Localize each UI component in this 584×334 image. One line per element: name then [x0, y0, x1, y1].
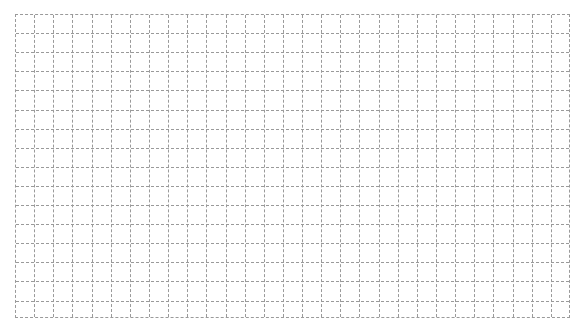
grid-vertical-line	[321, 15, 322, 317]
grid-vertical-line	[92, 15, 93, 317]
dashed-grid	[15, 14, 570, 318]
grid-vertical-line	[53, 15, 54, 317]
grid-vertical-line	[532, 15, 533, 317]
grid-vertical-line	[34, 15, 35, 317]
grid-horizontal-line	[16, 281, 569, 282]
grid-vertical-line	[340, 15, 341, 317]
grid-vertical-line	[493, 15, 494, 317]
grid-horizontal-line	[16, 90, 569, 91]
grid-vertical-line	[417, 15, 418, 317]
grid-vertical-line	[474, 15, 475, 317]
grid-vertical-line	[359, 15, 360, 317]
grid-vertical-line	[168, 15, 169, 317]
grid-horizontal-line	[16, 224, 569, 225]
grid-horizontal-line	[16, 167, 569, 168]
grid-horizontal-line	[16, 148, 569, 149]
grid-horizontal-line	[16, 205, 569, 206]
grid-vertical-line	[379, 15, 380, 317]
grid-paper-page	[0, 0, 584, 334]
grid-vertical-line	[283, 15, 284, 317]
grid-vertical-line	[149, 15, 150, 317]
grid-horizontal-line	[16, 262, 569, 263]
grid-vertical-line	[130, 15, 131, 317]
grid-vertical-line	[513, 15, 514, 317]
grid-horizontal-line	[16, 186, 569, 187]
grid-vertical-line	[455, 15, 456, 317]
grid-vertical-line	[264, 15, 265, 317]
grid-vertical-line	[226, 15, 227, 317]
grid-horizontal-line	[16, 243, 569, 244]
grid-vertical-line	[206, 15, 207, 317]
grid-horizontal-line	[16, 71, 569, 72]
grid-vertical-line	[302, 15, 303, 317]
grid-vertical-line	[187, 15, 188, 317]
grid-horizontal-line	[16, 33, 569, 34]
grid-horizontal-line	[16, 129, 569, 130]
grid-vertical-line	[72, 15, 73, 317]
grid-vertical-line	[245, 15, 246, 317]
grid-vertical-line	[436, 15, 437, 317]
grid-vertical-line	[551, 15, 552, 317]
grid-horizontal-line	[16, 52, 569, 53]
grid-horizontal-line	[16, 110, 569, 111]
grid-horizontal-line	[16, 301, 569, 302]
grid-vertical-line	[398, 15, 399, 317]
grid-vertical-line	[111, 15, 112, 317]
